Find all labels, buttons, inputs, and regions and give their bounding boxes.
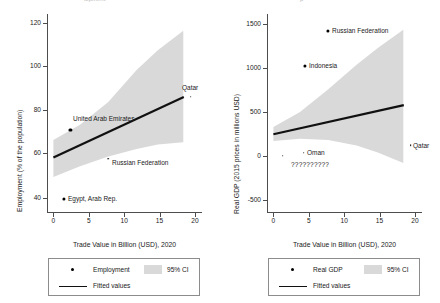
legend-line-icon-left	[59, 286, 87, 288]
data-point-russian-federation-left	[107, 158, 109, 160]
legend-real-gdp: Real GDP 95% CI Fitted values	[268, 258, 420, 296]
y-ticklabel-right-0: -500	[248, 196, 261, 203]
legend-row-real-gdp: Real GDP 95% CI	[269, 262, 419, 278]
panel-employment: 40 60 80 100 120 0 5 10 15 20	[0, 0, 220, 250]
point-label-oman: Oman	[307, 150, 325, 157]
legend-label-real-gdp: Real GDP	[313, 262, 343, 278]
x-ticklabel-left-1: 5	[87, 218, 91, 225]
legend-employment: Employment 95% CI Fitted values	[48, 258, 200, 296]
x-ticklabel-right-0: 0	[272, 218, 276, 225]
legend-label-fitted-left: Fitted values	[93, 278, 130, 294]
y-ticklabel-left-0: 40	[34, 195, 41, 202]
plot-real-gdp: -500 0 500 1000 1500 0 5 10 15 20	[267, 14, 422, 212]
y-ticklabel-right-4: 1500	[246, 21, 261, 28]
y-ticklabel-right-3: 1000	[246, 65, 261, 72]
point-label-qatar-left: Qatar	[182, 85, 198, 92]
point-label-indonesia: Indonesia	[309, 63, 337, 70]
point-label-unknown-questionmarks: ??????????	[291, 161, 329, 168]
x-ticklabel-left-3: 15	[156, 218, 163, 225]
legend-row-employment: Employment 95% CI	[49, 262, 199, 278]
legend-label-ci-right: 95% CI	[387, 262, 409, 278]
plot-area-left	[47, 14, 202, 212]
y-ticklabel-right-2: 500	[250, 109, 261, 116]
x-ticklabel-left-2: 10	[121, 218, 128, 225]
legend-dot-icon-employment	[71, 268, 74, 271]
legend-line-icon-right	[279, 286, 307, 288]
fitted-line-right	[267, 14, 422, 212]
point-label-russian-federation-right: Russian Federation	[332, 28, 388, 35]
legend-row-fitted-right: Fitted values	[269, 278, 419, 294]
y-ticklabel-left-3: 100	[30, 63, 41, 70]
point-label-united-arab-emirates: United Arab Emirates	[73, 116, 134, 123]
y-ticklabel-right-1: 0	[257, 153, 261, 160]
legend-row-fitted-left: Fitted values	[49, 278, 199, 294]
plot-area-right	[267, 14, 422, 212]
y-ticklabel-left-1: 60	[34, 150, 41, 157]
legend-band-swatch-right	[364, 265, 382, 274]
x-ticklabel-left-0: 0	[52, 218, 56, 225]
fitted-line-left	[47, 14, 202, 212]
point-label-qatar-right: Qatar	[413, 143, 429, 150]
y-ticklabel-left-4: 120	[30, 19, 41, 26]
data-point-qatar-left	[190, 96, 192, 98]
data-point-oman	[303, 152, 305, 154]
legend-label-employment: Employment	[93, 262, 130, 278]
y-axis-title-right: Real GDP (2015 prices in millions USD)	[233, 94, 240, 214]
x-axis-title-right: Trade Value in Billion (USD), 2020	[267, 241, 422, 248]
x-ticklabel-right-4: 20	[411, 218, 418, 225]
point-label-egypt-arab-rep: Egypt, Arab Rep.	[68, 196, 117, 203]
x-ticklabel-right-3: 15	[376, 218, 383, 225]
two-panel-scatter-figure: lopment p 40 60 80 100 120 0 5	[0, 0, 440, 303]
legend-label-ci-left: 95% CI	[167, 262, 189, 278]
y-axis-title-left: Employment (% of the population)	[16, 110, 23, 212]
legend-dot-icon-real-gdp	[291, 268, 294, 271]
legend-label-fitted-right: Fitted values	[313, 278, 350, 294]
x-axis-title-left: Trade Value in Billion (USD), 2020	[47, 241, 202, 248]
data-point-qatar-right	[410, 145, 412, 147]
x-ticklabel-right-1: 5	[307, 218, 311, 225]
y-ticklabel-left-2: 80	[34, 107, 41, 114]
plot-employment: 40 60 80 100 120 0 5 10 15 20	[47, 14, 202, 212]
legend-band-swatch-left	[144, 265, 162, 274]
panel-real-gdp: -500 0 500 1000 1500 0 5 10 15 20	[220, 0, 440, 250]
x-ticklabel-left-4: 20	[191, 218, 198, 225]
x-ticklabel-right-2: 10	[341, 218, 348, 225]
point-label-russian-federation-left: Russian Federation	[112, 160, 168, 167]
data-point-unlabeled-origin	[282, 155, 284, 157]
